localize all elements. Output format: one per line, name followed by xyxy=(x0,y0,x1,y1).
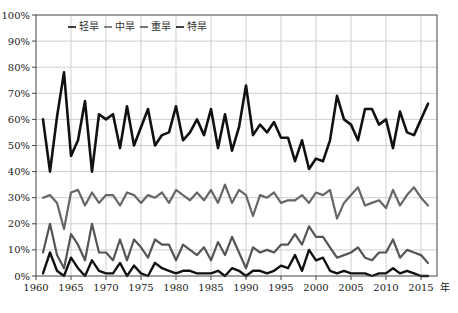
y-tick-label: 70% xyxy=(8,88,30,99)
y-tick-label: 30% xyxy=(8,192,30,203)
legend-label: 特旱 xyxy=(187,21,207,32)
x-tick-label: 2010 xyxy=(373,282,398,293)
legend-label: 重旱 xyxy=(151,20,171,32)
y-tick-label: 60% xyxy=(8,114,30,125)
y-tick-label: 80% xyxy=(8,62,30,73)
series-line-1 xyxy=(43,72,428,171)
x-tick-label: 1980 xyxy=(163,282,188,293)
series-line-2 xyxy=(43,185,428,229)
series-line-3 xyxy=(43,224,428,268)
y-tick-label: 50% xyxy=(8,140,30,151)
y-tick-label: 40% xyxy=(8,166,30,177)
x-tick-label: 1990 xyxy=(233,282,258,293)
drought-percentage-line-chart: 0%10%20%30%40%50%60%70%80%90%100% 196019… xyxy=(0,0,458,313)
legend-label: 中旱 xyxy=(115,20,135,32)
series-lines xyxy=(43,72,428,276)
y-tick-label: 100% xyxy=(1,10,30,21)
y-tick-label: 10% xyxy=(8,244,30,255)
y-tick-label: 20% xyxy=(8,218,30,229)
x-tick-label: 2005 xyxy=(338,282,363,293)
x-tick-label: 2015 xyxy=(408,282,433,293)
y-axis: 0%10%20%30%40%50%60%70%80%90%100% xyxy=(1,10,36,282)
legend-label: 轻旱 xyxy=(79,20,99,32)
x-tick-label: 1995 xyxy=(268,282,293,293)
x-axis-unit-label: 年 xyxy=(440,281,450,293)
legend: 轻旱中旱重旱特旱 xyxy=(68,20,207,32)
x-tick-label: 2000 xyxy=(303,282,328,293)
x-tick-label: 1970 xyxy=(93,282,118,293)
y-tick-label: 90% xyxy=(8,36,30,47)
series-line-4 xyxy=(43,250,428,276)
x-axis: 1960196519701975198019851990199520002005… xyxy=(23,276,433,293)
y-tick-label: 0% xyxy=(14,271,30,282)
x-tick-label: 1965 xyxy=(58,282,83,293)
x-tick-label: 1975 xyxy=(128,282,153,293)
x-tick-label: 1960 xyxy=(23,282,48,293)
x-tick-label: 1985 xyxy=(198,282,223,293)
